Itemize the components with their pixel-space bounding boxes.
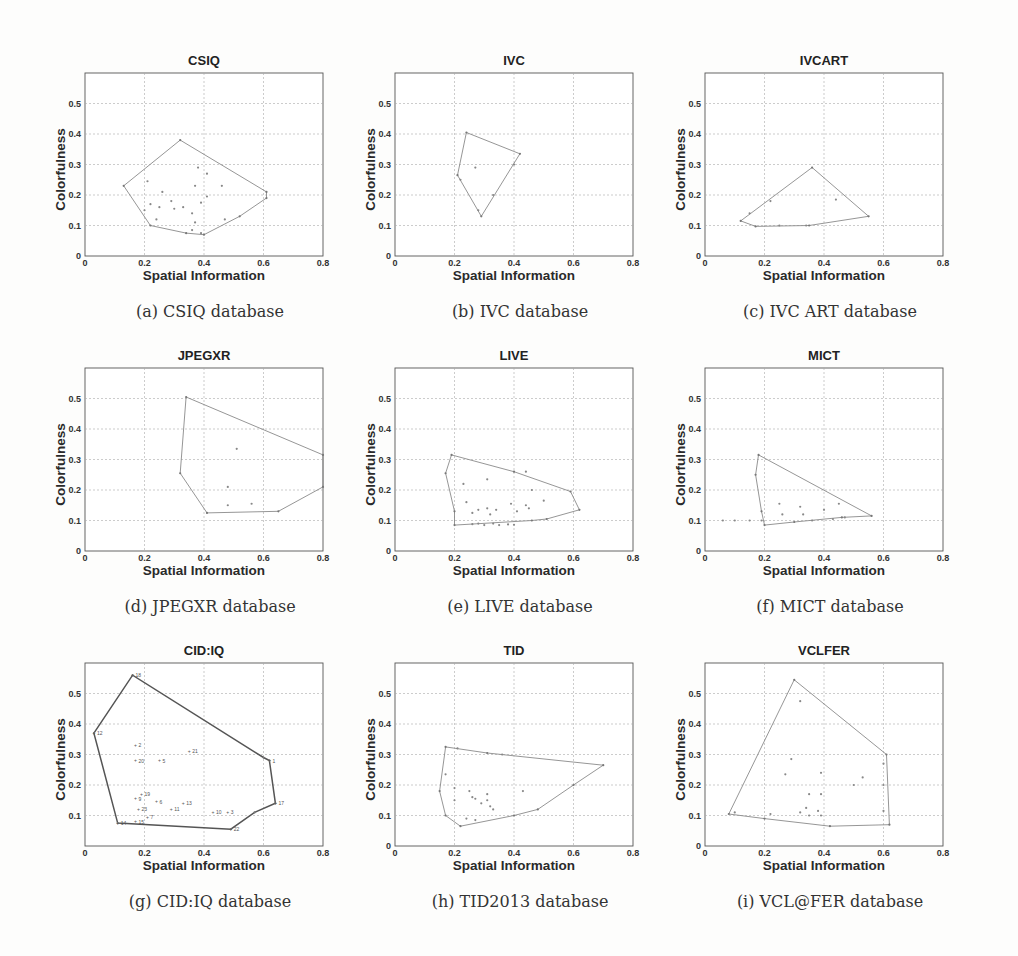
chart-panel-b: IVC00.20.40.60.800.10.20.30.40.5Spatial …: [370, 40, 670, 330]
data-point: [844, 516, 846, 518]
data-point: [194, 185, 196, 187]
data-point: [778, 503, 780, 505]
y-tick-label: 0.5: [688, 99, 701, 109]
svg-text:+: +: [268, 757, 271, 763]
svg-text:+: +: [158, 757, 161, 763]
data-point: [206, 173, 208, 175]
data-point: [453, 799, 455, 801]
svg-text:+: +: [188, 748, 191, 754]
scatter-plot: JPEGXR00.20.40.60.800.10.20.30.40.5Spati…: [60, 335, 360, 595]
data-point: [790, 758, 792, 760]
data-point: [778, 224, 780, 226]
data-point: [486, 799, 488, 801]
data-point: [480, 802, 482, 804]
data-point: [489, 805, 491, 807]
data-point: [769, 813, 771, 815]
y-tick-label: 0: [386, 841, 391, 851]
x-tick-label: 0.4: [818, 848, 831, 858]
chart-title: VCLFER: [798, 643, 851, 658]
data-point: [823, 509, 825, 511]
y-tick-label: 0: [76, 546, 81, 556]
data-point: [498, 524, 500, 526]
point-label: 19: [145, 791, 151, 797]
data-point: [444, 773, 446, 775]
chart-title: TID: [504, 643, 525, 658]
point-label: 23: [142, 806, 148, 812]
subfigure-caption: (h) TID2013 database: [370, 892, 670, 911]
point-label: 17: [278, 800, 284, 806]
x-tick-label: 0: [702, 848, 707, 858]
chart-panel-f: MICT00.20.40.60.800.10.20.30.40.5Spatial…: [680, 335, 980, 625]
x-axis-label: Spatial Information: [453, 563, 575, 578]
plot-area: [395, 663, 633, 846]
x-tick-label: 0.2: [758, 553, 771, 563]
x-axis-label: Spatial Information: [453, 858, 575, 873]
x-tick-label: 0: [392, 553, 397, 563]
data-point: [483, 524, 485, 526]
data-point: [862, 776, 864, 778]
subfigure-caption: (b) IVC database: [370, 302, 670, 321]
chart-panel-a: CSIQ00.20.40.60.800.10.20.30.40.5Spatial…: [60, 40, 360, 330]
data-point: [146, 180, 148, 182]
data-point: [459, 179, 461, 181]
svg-text:+: +: [155, 798, 158, 804]
x-axis-label: Spatial Information: [763, 563, 885, 578]
data-point: [799, 506, 801, 508]
x-tick-label: 0.6: [257, 553, 270, 563]
data-point: [781, 513, 783, 515]
y-axis-label: Colorfulness: [673, 718, 688, 801]
x-tick-label: 0.8: [317, 258, 330, 268]
data-point: [820, 772, 822, 774]
data-point: [200, 232, 202, 234]
svg-text:+: +: [137, 806, 140, 812]
data-point: [173, 208, 175, 210]
x-axis-label: Spatial Information: [763, 858, 885, 873]
plot-area: [705, 73, 943, 256]
scatter-plot: CSIQ00.20.40.60.800.10.20.30.40.5Spatial…: [60, 40, 360, 300]
data-point: [143, 209, 145, 211]
data-point: [501, 753, 503, 755]
y-tick-label: 0.2: [378, 485, 391, 495]
point-label: 7: [150, 814, 153, 820]
data-point: [835, 198, 837, 200]
data-point: [805, 224, 807, 226]
svg-text:+: +: [226, 809, 229, 815]
y-axis-label: Colorfulness: [363, 128, 378, 211]
point-label: 22: [234, 826, 240, 832]
y-tick-label: 0: [696, 546, 701, 556]
chart-title: JPEGXR: [178, 348, 231, 363]
x-tick-label: 0.2: [138, 848, 151, 858]
data-point: [492, 808, 494, 810]
x-tick-label: 0.2: [758, 258, 771, 268]
svg-text:+: +: [170, 806, 173, 812]
x-tick-label: 0.8: [937, 848, 950, 858]
plot-area: [85, 368, 323, 551]
point-label: 18: [136, 672, 142, 678]
data-point: [882, 810, 884, 812]
x-tick-label: 0.6: [567, 553, 580, 563]
x-tick-label: 0.4: [198, 553, 211, 563]
y-tick-label: 0.1: [68, 811, 81, 821]
y-tick-label: 0.2: [688, 485, 701, 495]
chart-panel-c: IVCART00.20.40.60.800.10.20.30.40.5Spati…: [680, 40, 980, 330]
y-tick-label: 0.3: [68, 455, 81, 465]
svg-text:+: +: [116, 820, 119, 826]
plot-area: [85, 663, 323, 846]
x-tick-label: 0.6: [567, 848, 580, 858]
x-tick-label: 0.6: [257, 848, 270, 858]
y-tick-label: 0.5: [688, 394, 701, 404]
data-point: [525, 471, 527, 473]
svg-text:+: +: [274, 800, 277, 806]
y-tick-label: 0.3: [378, 160, 391, 170]
data-point: [799, 700, 801, 702]
x-tick-label: 0.2: [448, 258, 461, 268]
data-point: [528, 507, 530, 509]
data-point: [471, 796, 473, 798]
y-tick-label: 0: [696, 841, 701, 851]
point-label: 12: [97, 730, 103, 736]
data-point: [799, 811, 801, 813]
x-tick-label: 0: [82, 848, 87, 858]
y-tick-label: 0.4: [68, 424, 81, 434]
point-label: 5: [162, 758, 165, 764]
subfigure-caption: (g) CID:IQ database: [60, 892, 360, 911]
